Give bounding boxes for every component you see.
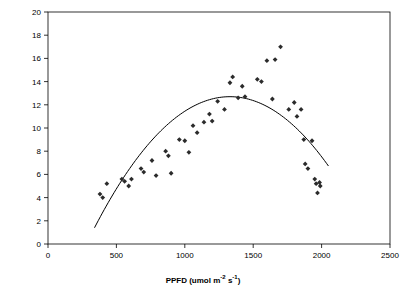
chart-container: Net Photosynthesis (umol m-2 s-1) PPFD (… bbox=[0, 0, 406, 291]
x-tick-label: 1500 bbox=[244, 251, 262, 260]
y-tick-label: 18 bbox=[32, 31, 41, 40]
x-tick-label: 2500 bbox=[381, 251, 399, 260]
y-tick-label: 6 bbox=[37, 170, 42, 179]
y-tick-label: 14 bbox=[32, 78, 41, 87]
y-tick-label: 2 bbox=[37, 217, 42, 226]
y-tick-label: 20 bbox=[32, 8, 41, 17]
y-tick-label: 0 bbox=[37, 240, 42, 249]
y-tick-label: 16 bbox=[32, 54, 41, 63]
x-tick-label: 500 bbox=[110, 251, 124, 260]
y-tick-label: 4 bbox=[37, 194, 42, 203]
x-tick-label: 2000 bbox=[313, 251, 331, 260]
y-tick-label: 8 bbox=[37, 147, 42, 156]
plot-area: 0246810121416182005001000150020002500 bbox=[0, 0, 406, 291]
y-tick-label: 12 bbox=[32, 101, 41, 110]
plot-frame bbox=[48, 12, 390, 244]
x-tick-label: 0 bbox=[46, 251, 51, 260]
x-tick-label: 1000 bbox=[176, 251, 194, 260]
y-tick-label: 10 bbox=[32, 124, 41, 133]
